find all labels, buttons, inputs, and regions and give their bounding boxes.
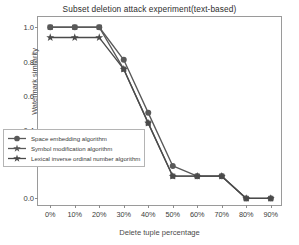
x-axis-tick-mark [148, 205, 149, 208]
x-axis-tick-label: 0% [45, 210, 56, 219]
x-axis-tick-mark [173, 205, 174, 208]
legend-item[interactable]: Lexical inverse ordinal number algorithm [7, 153, 140, 163]
legend-item[interactable]: Space embedding algorithm [7, 133, 140, 143]
x-axis-tick-mark [222, 205, 223, 208]
x-axis-tick-label: 80% [239, 210, 254, 219]
chart-figure: Subset deletion attack experiment(text-b… [0, 0, 299, 245]
y-axis-tick-mark [35, 96, 38, 97]
legend-marker-icon [7, 154, 27, 163]
y-axis-tick-mark [35, 198, 38, 199]
legend-marker-icon [7, 134, 27, 143]
x-axis-tick-mark [50, 205, 51, 208]
x-axis-tick-label: 30% [116, 210, 131, 219]
y-axis-tick-label: 0.8 [23, 57, 34, 66]
x-axis-tick-label: 90% [263, 210, 278, 219]
x-axis-tick-label: 60% [190, 210, 205, 219]
y-axis-tick-label: 0.0 [23, 194, 34, 203]
legend-item-label: Lexical inverse ordinal number algorithm [31, 154, 140, 163]
x-axis-tick-label: 40% [141, 210, 156, 219]
plot-area: Watermark similarity 0.00.20.40.60.81.00… [37, 16, 282, 206]
legend-marker-icon [7, 144, 27, 153]
y-axis-tick-mark [35, 27, 38, 28]
x-axis-tick-mark [197, 205, 198, 208]
x-axis-tick-label: 10% [67, 210, 82, 219]
legend-item-label: Symbol modification algorithm [31, 144, 112, 153]
x-axis-tick-mark [99, 205, 100, 208]
x-axis-tick-label: 20% [92, 210, 107, 219]
plot-canvas [38, 17, 283, 207]
legend-item-label: Space embedding algorithm [31, 134, 107, 143]
x-axis-tick-label: 70% [214, 210, 229, 219]
legend-item[interactable]: Symbol modification algorithm [7, 143, 140, 153]
x-axis-tick-mark [75, 205, 76, 208]
x-axis-tick-mark [246, 205, 247, 208]
x-axis-label: Delete tuple percentage [37, 228, 282, 237]
x-axis-tick-mark [124, 205, 125, 208]
chart-legend: Space embedding algorithmSymbol modifica… [3, 129, 145, 167]
chart-title: Subset deletion attack experiment(text-b… [0, 4, 299, 14]
chart-series [46, 33, 274, 202]
x-axis-tick-label: 50% [165, 210, 180, 219]
y-axis-tick-label: 1.0 [23, 23, 34, 32]
chart-series [47, 24, 274, 201]
y-axis-tick-mark [35, 62, 38, 63]
y-axis-tick-label: 0.6 [23, 91, 34, 100]
x-axis-tick-mark [271, 205, 272, 208]
chart-series [48, 25, 274, 201]
